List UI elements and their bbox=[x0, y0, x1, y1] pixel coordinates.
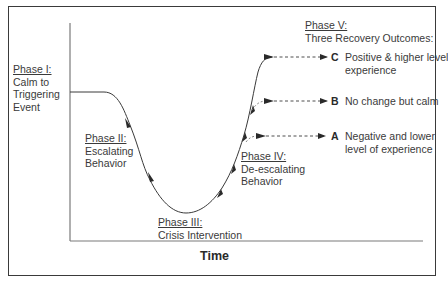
phase4-line: De-escalating bbox=[241, 163, 305, 176]
outcome-a-letter: A bbox=[331, 130, 339, 142]
phase1-line: Calm to bbox=[13, 76, 60, 89]
outcome-b-letter: B bbox=[331, 95, 339, 107]
outcome-c-letter: C bbox=[331, 51, 339, 63]
phase2-label: Phase II: Escalating Behavior bbox=[85, 132, 133, 170]
phase1-title: Phase I: bbox=[13, 63, 60, 76]
phase3-label: Phase III: Crisis Intervention bbox=[158, 216, 242, 241]
phase4-label: Phase IV: De-escalating Behavior bbox=[241, 150, 305, 188]
phase4-title: Phase IV: bbox=[241, 150, 305, 163]
outcome-c-line: Positive & higher level bbox=[345, 51, 448, 64]
outcome-b-text: No change but calm bbox=[345, 95, 438, 108]
outcome-a-text: Negative and lower level of experience bbox=[345, 130, 435, 155]
phase2-line: Behavior bbox=[85, 157, 133, 170]
outcome-c-line: experience bbox=[345, 64, 448, 77]
phase2-line: Escalating bbox=[85, 145, 133, 158]
outcome-b-start-arrow bbox=[264, 98, 274, 104]
outcome-c-text: Positive & higher level experience bbox=[345, 51, 448, 76]
phase1-label: Phase I: Calm to Triggering Event bbox=[13, 63, 60, 113]
phase2-title: Phase II: bbox=[85, 132, 133, 145]
outcome-a-start-arrow bbox=[256, 133, 266, 139]
outcome-a-line: level of experience bbox=[345, 143, 435, 156]
phase1-line: Triggering bbox=[13, 88, 60, 101]
outcome-b-line: No change but calm bbox=[345, 95, 438, 108]
phase5-label: Phase V: Three Recovery Outcomes: bbox=[305, 19, 433, 44]
phase1-line: Event bbox=[13, 101, 60, 114]
phase5-line: Three Recovery Outcomes: bbox=[305, 32, 433, 45]
phase3-line: Crisis Intervention bbox=[158, 229, 242, 242]
phase3-title: Phase III: bbox=[158, 216, 242, 229]
outcome-a-line: Negative and lower bbox=[345, 130, 435, 143]
phase4-line: Behavior bbox=[241, 175, 305, 188]
outcome-c-start-arrow bbox=[264, 54, 274, 60]
x-axis-label: Time bbox=[200, 249, 229, 263]
phase5-title: Phase V: bbox=[305, 19, 433, 32]
